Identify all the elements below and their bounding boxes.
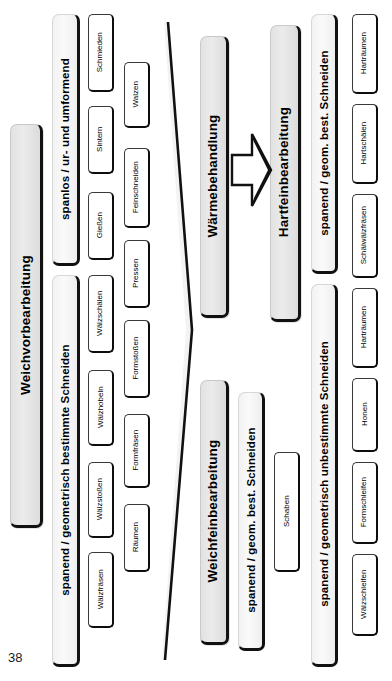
leaf-raeumen[interactable]: Räumen	[124, 504, 150, 572]
leaf-giessen[interactable]: Gießen	[88, 192, 114, 260]
leaf-hartraeumen-2[interactable]: Harträumen	[352, 288, 378, 368]
leaf-formfraesen[interactable]: Formfräsen	[124, 414, 150, 488]
group-spanlos-ur-und-umformend[interactable]: spanlos / ur- und umformend	[52, 14, 80, 266]
leaf-label: Räumen	[132, 522, 140, 552]
leaf-pressen[interactable]: Pressen	[124, 240, 150, 308]
leaf-label: Wälzfräsen	[96, 569, 104, 609]
process-arrow-icon	[228, 128, 274, 212]
page-number: 38	[8, 650, 22, 665]
leaf-label: Harträumen	[360, 32, 368, 74]
group-spanend-geom-best-schneiden-weich[interactable]: spanend / geom. best. Schneiden	[238, 392, 265, 651]
leaf-walzen[interactable]: Walzen	[124, 62, 150, 128]
stage-hartfeinbearbeitung[interactable]: Hartfeinbearbeitung	[270, 25, 301, 322]
leaf-waelzstossen[interactable]: Wälzstoßen	[88, 462, 114, 538]
leaf-formstossen[interactable]: Formstoßen	[124, 320, 150, 398]
leaf-feinschneiden[interactable]: Feinschneiden	[124, 148, 150, 228]
leaf-waelzfraesen[interactable]: Wälzfräsen	[88, 552, 114, 628]
leaf-label: Harträumen	[360, 306, 368, 348]
group-spanend-geom-unbestimmte-schneiden[interactable]: spanend / geometrisch unbestimmte Schnei…	[311, 284, 338, 667]
group-spanend-geom-bestimmte-schneiden[interactable]: spanend / geometrisch bestimmte Schneide…	[52, 275, 80, 667]
leaf-hartraeumen-1[interactable]: Harträumen	[352, 14, 378, 94]
stage-weichvorbearbeitung[interactable]: Weichvorbearbeitung	[10, 124, 43, 528]
leaf-label: Wälzhobeln	[96, 387, 104, 429]
leaf-label: Formschleifen	[360, 477, 368, 527]
leaf-label: Hartschälen	[360, 122, 368, 165]
leaf-waelzschleifen[interactable]: Wälzschleifen	[352, 554, 378, 636]
leaf-waelzschaelen[interactable]: Wälzschälen	[88, 275, 114, 353]
group-label: spanend / geometrisch unbestimmte Schnei…	[317, 342, 329, 608]
leaf-waelzhobeln[interactable]: Wälzhobeln	[88, 370, 114, 446]
leaf-formschleifen[interactable]: Formschleifen	[352, 462, 378, 544]
leaf-label: Schaben	[282, 496, 290, 528]
leaf-label: Wälzschälen	[96, 291, 104, 336]
leaf-schmieden[interactable]: Schmieden	[88, 14, 114, 92]
stage-label: Hartfeinbearbeitung	[277, 107, 291, 237]
leaf-label: Walzen	[132, 81, 140, 107]
leaf-label: Sintern	[96, 127, 104, 152]
leaf-honen[interactable]: Honen	[352, 378, 378, 452]
leaf-schaben[interactable]: Schaben	[274, 452, 300, 572]
leaf-label: Formfräsen	[132, 430, 140, 471]
leaf-label: Honen	[360, 403, 368, 427]
stage-label: Weichvorbearbeitung	[18, 255, 32, 395]
group-label: spanlos / ur- und umformend	[59, 58, 71, 220]
stage-label: Weichfeinbearbeitung	[206, 440, 220, 583]
leaf-label: Schmieden	[96, 32, 104, 72]
leaf-label: Formstoßen	[132, 337, 140, 380]
leaf-label: Gießen	[96, 212, 104, 238]
group-label: spanend / geom. best. Schneiden	[244, 428, 256, 613]
leaf-sintern[interactable]: Sintern	[88, 106, 114, 174]
section-divider-wedge	[150, 0, 206, 681]
leaf-hartschaelen[interactable]: Hartschälen	[352, 104, 378, 184]
leaf-label: Schälwälzfräsen	[360, 206, 368, 264]
leaf-label: Feinschneiden	[132, 161, 140, 213]
leaf-label: Wälzschleifen	[360, 570, 368, 619]
group-label: spanend / geom. best. Schneiden	[317, 50, 329, 235]
group-label: spanend / geometrisch bestimmte Schneide…	[59, 344, 71, 595]
leaf-label: Wälzstoßen	[96, 478, 104, 520]
stage-label: Wärmebehandlung	[206, 114, 220, 237]
group-spanend-geom-best-schneiden-hart[interactable]: spanend / geom. best. Schneiden	[311, 14, 338, 274]
leaf-schaelwaelzfraesen[interactable]: Schälwälzfräsen	[352, 194, 378, 278]
leaf-label: Pressen	[132, 259, 140, 288]
